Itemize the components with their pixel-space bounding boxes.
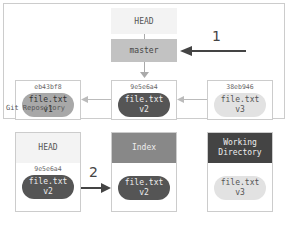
file-version: v3	[214, 188, 266, 198]
file-name: file.txt	[214, 178, 266, 188]
working-directory-tree: Working Directory file.txtv3	[207, 132, 273, 212]
file-blob: file.txtv2	[22, 175, 74, 199]
file-name: file.txt	[22, 177, 74, 187]
index-tree: Index file.txtv2	[111, 132, 177, 212]
commit-node: 9e5e6a4 file.txtv2	[111, 80, 177, 120]
file-version: v2	[118, 105, 170, 115]
arrow-down-icon	[140, 72, 149, 79]
arrow-left-icon	[81, 95, 111, 104]
tree-title: Index	[112, 133, 176, 163]
file-name: file.txt	[118, 178, 170, 188]
file-blob: file.txtv3	[214, 93, 266, 117]
arrow-left-icon	[177, 95, 207, 104]
tree-title: Working Directory	[208, 133, 272, 163]
master-branch: master	[111, 39, 177, 62]
file-name: file.txt	[118, 95, 170, 105]
file-blob: file.txtv3	[214, 176, 266, 200]
repository-label: Git Repository	[6, 104, 65, 112]
commit-node: eb43bf8 file.txtv1	[15, 80, 81, 120]
commit-hash: 9e5e6a4	[112, 83, 176, 91]
tree-title: HEAD	[16, 133, 80, 163]
step-2-label: 2	[89, 164, 98, 180]
file-version: v2	[118, 188, 170, 198]
file-version: v3	[214, 105, 266, 115]
arrow-left-icon	[178, 44, 248, 58]
arrow-right-icon	[81, 182, 111, 194]
commit-hash: 38eb946	[208, 83, 272, 91]
commit-node: 38eb946 file.txtv3	[207, 80, 273, 120]
head-tree: HEAD 9e5e6a4 file.txtv2	[15, 132, 81, 212]
commit-hash: eb43bf8	[16, 83, 80, 91]
file-name: file.txt	[214, 95, 266, 105]
head-label: HEAD	[134, 17, 153, 26]
step-1-label: 1	[212, 28, 221, 44]
head-pointer: HEAD	[111, 8, 177, 34]
file-version: v2	[22, 187, 74, 197]
commit-hash: 9e5e6a4	[16, 165, 80, 173]
file-blob: file.txtv2	[118, 93, 170, 117]
branch-label: master	[130, 46, 159, 55]
file-blob: file.txtv2	[118, 176, 170, 200]
